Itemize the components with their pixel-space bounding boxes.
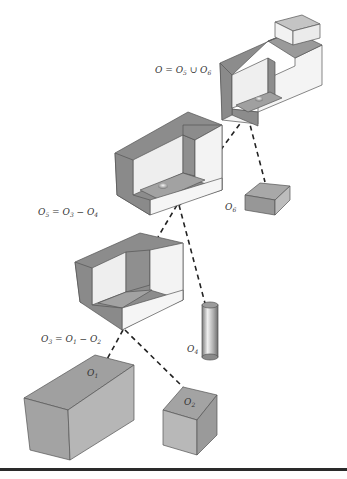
label-o4: O4 xyxy=(187,344,198,355)
hole-icon xyxy=(158,183,168,189)
object-o5 xyxy=(115,112,222,215)
object-o3 xyxy=(75,233,183,330)
bottom-rule-divider xyxy=(0,468,347,471)
object-o1 xyxy=(24,355,134,460)
label-o6: O6 xyxy=(225,202,236,213)
equation-union: O = O5 ∪ O6 xyxy=(155,65,212,76)
csg-diagram: O = O5 ∪ O6 O5 = O3 − O4 O6 xyxy=(0,0,347,479)
edge-o-o6 xyxy=(248,117,265,182)
equation-diff5: O5 = O3 − O4 xyxy=(38,207,98,218)
object-o4-cylinder xyxy=(202,302,218,360)
object-o-final xyxy=(220,15,322,126)
equation-diff3: O3 = O1 − O2 xyxy=(41,334,101,345)
object-o6 xyxy=(245,183,290,215)
hole-icon xyxy=(255,97,263,102)
